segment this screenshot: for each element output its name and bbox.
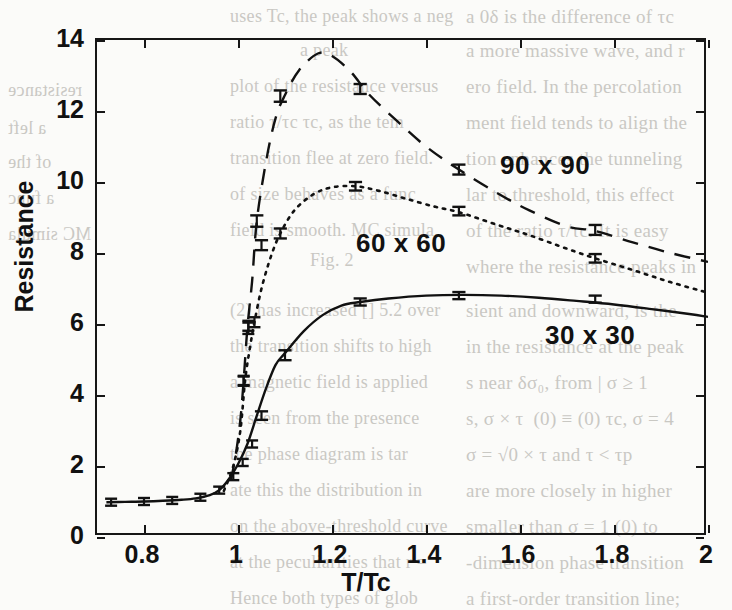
x-axis-tick-top bbox=[614, 40, 616, 48]
x-axis-tick-top bbox=[144, 40, 146, 48]
x-tick-label: 1.6 bbox=[501, 540, 536, 569]
y-axis-tick bbox=[97, 253, 105, 255]
series-label-30x30: 30 x 30 bbox=[545, 320, 635, 351]
x-axis-tick bbox=[520, 525, 522, 533]
x-axis-tick bbox=[614, 525, 616, 533]
y-axis-tick bbox=[97, 182, 105, 184]
y-axis-tick bbox=[97, 40, 105, 42]
y-tick-label: 12 bbox=[28, 95, 84, 124]
plot-curves-svg bbox=[97, 40, 708, 537]
series-60x60 bbox=[224, 182, 708, 491]
y-tick-label: 2 bbox=[28, 450, 84, 479]
series-label-60x60: 60 x 60 bbox=[356, 228, 446, 259]
data-point-errorbar bbox=[274, 229, 287, 239]
y-tick-label: 14 bbox=[28, 24, 84, 53]
x-axis-label: T/Tc bbox=[0, 568, 732, 597]
y-tick-label: 8 bbox=[28, 237, 84, 266]
y-axis-tick-right bbox=[696, 324, 704, 326]
y-axis-tick-right bbox=[696, 253, 704, 255]
x-axis-tick bbox=[144, 525, 146, 533]
resistance-vs-temperature-chart: Resistance T/Tc 0.811.21.41.61.820246810… bbox=[0, 0, 732, 610]
y-axis-tick bbox=[97, 537, 105, 539]
x-axis-tick bbox=[708, 525, 710, 533]
y-axis-tick-right bbox=[696, 40, 704, 42]
y-axis-tick-right bbox=[696, 111, 704, 113]
x-axis-tick bbox=[426, 525, 428, 533]
y-axis-tick bbox=[97, 395, 105, 397]
series-label-90x90: 90 x 90 bbox=[500, 150, 590, 181]
x-tick-label: 0.8 bbox=[125, 540, 160, 569]
x-tick-label: 1 bbox=[229, 540, 243, 569]
x-axis-tick-top bbox=[238, 40, 240, 48]
data-point-errorbar bbox=[354, 84, 367, 94]
y-tick-label: 0 bbox=[28, 521, 84, 550]
y-axis-tick-right bbox=[696, 537, 704, 539]
y-axis-tick bbox=[97, 324, 105, 326]
plot-frame bbox=[95, 38, 706, 535]
x-tick-label: 1.2 bbox=[313, 540, 348, 569]
data-point-errorbar bbox=[250, 215, 263, 226]
data-point-errorbar bbox=[255, 240, 268, 250]
data-point-errorbar bbox=[589, 296, 602, 303]
x-tick-label: 2 bbox=[699, 540, 713, 569]
y-axis-tick-right bbox=[696, 466, 704, 468]
x-axis-tick bbox=[238, 525, 240, 533]
y-axis-tick bbox=[97, 466, 105, 468]
x-tick-label: 1.8 bbox=[595, 540, 630, 569]
data-point-errorbar bbox=[589, 254, 602, 263]
y-axis-tick bbox=[97, 111, 105, 113]
y-tick-label: 10 bbox=[28, 166, 84, 195]
x-axis-tick bbox=[332, 525, 334, 533]
x-axis-tick-top bbox=[708, 40, 710, 48]
series-90x90 bbox=[231, 52, 708, 480]
y-axis-tick-right bbox=[696, 182, 704, 184]
y-tick-label: 4 bbox=[28, 379, 84, 408]
y-axis-tick-right bbox=[696, 395, 704, 397]
x-axis-tick-top bbox=[426, 40, 428, 48]
x-axis-tick-top bbox=[332, 40, 334, 48]
y-tick-label: 6 bbox=[28, 308, 84, 337]
curve-line bbox=[231, 52, 708, 480]
x-axis-tick-top bbox=[520, 40, 522, 48]
x-tick-label: 1.4 bbox=[407, 540, 442, 569]
